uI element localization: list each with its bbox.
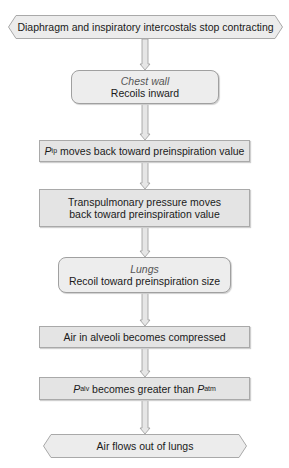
palv-variable: P [73, 383, 80, 395]
transpulmonary-line2: back toward preinspiration value [69, 208, 220, 220]
pip-variable: P [45, 145, 52, 157]
lungs-text: Recoil toward preinspiration size [69, 275, 220, 287]
patm-variable: P [197, 383, 204, 395]
alveoli-node: Air in alveoli becomes compressed [39, 326, 250, 348]
transpulmonary-node: Transpulmonary pressure moves back towar… [39, 189, 250, 227]
chest-wall-text: Recoils inward [111, 87, 179, 99]
pip-text: moves back toward preinspiration value [57, 145, 244, 157]
pip-node: Pip moves back toward preinspiration val… [39, 140, 250, 162]
chest-wall-label: Chest wall [121, 75, 169, 87]
end-node: Air flows out of lungs [43, 434, 247, 458]
palv-node: Palv becomes greater than Patm [39, 377, 250, 400]
alveoli-text: Air in alveoli becomes compressed [63, 331, 225, 343]
end-node-text: Air flows out of lungs [97, 440, 194, 452]
transpulmonary-line1: Transpulmonary pressure moves [68, 196, 221, 208]
chest-wall-node: Chest wall Recoils inward [71, 70, 219, 104]
start-node: Diaphragm and inspiratory intercostals s… [8, 15, 283, 39]
lungs-label: Lungs [130, 263, 159, 275]
start-node-text: Diaphragm and inspiratory intercostals s… [17, 21, 273, 33]
palv-text: becomes greater than [89, 383, 197, 395]
palv-subscript: alv [80, 383, 89, 395]
lungs-node: Lungs Recoil toward preinspiration size [58, 257, 231, 293]
patm-subscript: atm [204, 383, 216, 395]
